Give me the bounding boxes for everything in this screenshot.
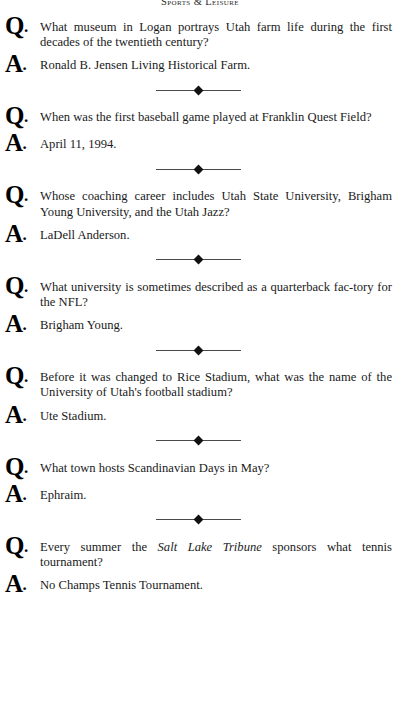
question-text: When was the first baseball game played … — [40, 103, 392, 125]
question-marker: Q. — [5, 454, 40, 480]
question-text: What university is sometimes described a… — [40, 273, 392, 310]
answer-text: Brigham Young. — [40, 311, 392, 333]
running-head: Sports & Leisure — [0, 0, 400, 7]
diamond-icon — [194, 164, 204, 174]
question-text: Before it was changed to Rice Stadium, w… — [40, 363, 392, 400]
marker-dot: . — [24, 367, 28, 386]
divider-rule-left — [156, 440, 194, 441]
answer-row: A.Ephraim. — [5, 481, 392, 507]
answer-text: LaDell Anderson. — [40, 221, 392, 243]
question-row: Q.Every summer the Salt Lake Tribune spo… — [5, 533, 392, 570]
diamond-icon — [194, 85, 204, 95]
answer-text: April 11, 1994. — [40, 130, 392, 152]
section-divider — [5, 156, 392, 182]
italic-title: Salt Lake Tribune — [158, 540, 262, 554]
answer-marker: A. — [5, 311, 40, 337]
answer-row: A.Ronald B. Jensen Living Historical Far… — [5, 51, 392, 77]
question-marker: Q. — [5, 13, 40, 39]
marker-dot: . — [23, 575, 27, 594]
marker-dot: . — [24, 107, 28, 126]
divider-rule-right — [203, 90, 241, 91]
question-text: Every summer the Salt Lake Tribune spons… — [40, 533, 392, 570]
question-row: Q.When was the first baseball game playe… — [5, 103, 392, 129]
marker-dot: . — [23, 315, 27, 334]
question-text: What museum in Logan portrays Utah farm … — [40, 13, 392, 50]
trivia-page: Sports & Leisure Q.What museum in Logan … — [0, 0, 400, 714]
answer-row: A.April 11, 1994. — [5, 130, 392, 156]
question-marker: Q. — [5, 103, 40, 129]
marker-dot: . — [24, 537, 28, 556]
question-row: Q.What town hosts Scandinavian Days in M… — [5, 454, 392, 480]
marker-dot: . — [24, 458, 28, 477]
divider-rule-right — [203, 350, 241, 351]
qa-block: Q.What town hosts Scandinavian Days in M… — [5, 454, 392, 507]
divider-rule-left — [156, 350, 194, 351]
question-row: Q.Whose coaching career includes Utah St… — [5, 182, 392, 219]
divider-rule-right — [203, 519, 241, 520]
diamond-icon — [194, 436, 204, 446]
marker-dot: . — [24, 277, 28, 296]
question-row: Q.What museum in Logan portrays Utah far… — [5, 13, 392, 50]
question-text: Whose coaching career includes Utah Stat… — [40, 182, 392, 219]
question-marker: Q. — [5, 273, 40, 299]
answer-row: A.No Champs Tennis Tournament. — [5, 571, 392, 597]
answer-marker: A. — [5, 130, 40, 156]
qa-block: Q.Whose coaching career includes Utah St… — [5, 182, 392, 246]
marker-dot: . — [23, 134, 27, 153]
divider-rule-left — [156, 259, 194, 260]
answer-text: Ute Stadium. — [40, 402, 392, 424]
divider-rule-left — [156, 519, 194, 520]
divider-rule-right — [203, 169, 241, 170]
answer-marker: A. — [5, 571, 40, 597]
answer-row: A.LaDell Anderson. — [5, 221, 392, 247]
divider-rule-left — [156, 169, 194, 170]
section-divider — [5, 428, 392, 454]
answer-marker: A. — [5, 402, 40, 428]
section-divider — [5, 77, 392, 103]
question-marker: Q. — [5, 533, 40, 559]
diamond-icon — [194, 345, 204, 355]
qa-block: Q.What museum in Logan portrays Utah far… — [5, 13, 392, 77]
answer-marker: A. — [5, 221, 40, 247]
divider-rule-right — [203, 259, 241, 260]
answer-text: Ronald B. Jensen Living Historical Farm. — [40, 51, 392, 73]
marker-dot: . — [24, 17, 28, 36]
qa-block: Q.Before it was changed to Rice Stadium,… — [5, 363, 392, 427]
question-text: What town hosts Scandinavian Days in May… — [40, 454, 392, 476]
qa-block: Q.Every summer the Salt Lake Tribune spo… — [5, 533, 392, 597]
answer-row: A.Ute Stadium. — [5, 402, 392, 428]
question-row: Q.What university is sometimes described… — [5, 273, 392, 310]
answer-marker: A. — [5, 481, 40, 507]
marker-dot: . — [23, 225, 27, 244]
marker-dot: . — [23, 55, 27, 74]
marker-dot: . — [24, 186, 28, 205]
qa-list: Q.What museum in Logan portrays Utah far… — [5, 0, 392, 597]
marker-dot: . — [23, 485, 27, 504]
answer-row: A.Brigham Young. — [5, 311, 392, 337]
question-marker: Q. — [5, 363, 40, 389]
question-fragment: Every summer the — [40, 540, 158, 554]
marker-dot: . — [23, 406, 27, 425]
answer-text: No Champs Tennis Tournament. — [40, 571, 392, 593]
section-divider — [5, 507, 392, 533]
section-divider — [5, 337, 392, 363]
qa-block: Q.When was the first baseball game playe… — [5, 103, 392, 156]
diamond-icon — [194, 255, 204, 265]
answer-marker: A. — [5, 51, 40, 77]
divider-rule-right — [203, 440, 241, 441]
diamond-icon — [194, 515, 204, 525]
answer-text: Ephraim. — [40, 481, 392, 503]
divider-rule-left — [156, 90, 194, 91]
qa-block: Q.What university is sometimes described… — [5, 273, 392, 337]
question-row: Q.Before it was changed to Rice Stadium,… — [5, 363, 392, 400]
section-divider — [5, 247, 392, 273]
question-marker: Q. — [5, 182, 40, 208]
